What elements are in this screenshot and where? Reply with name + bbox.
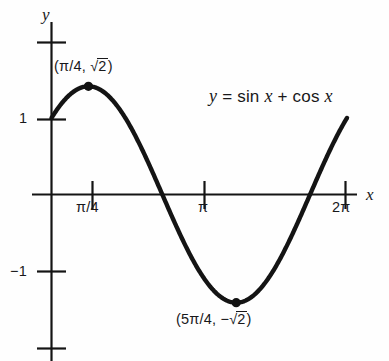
equation-cos-part: + cos: [273, 87, 325, 106]
maximum-label-prefix: (π/4,: [54, 58, 90, 74]
equation-label: y = sin x + cos x: [209, 87, 333, 105]
equation-x-first: x: [264, 86, 272, 106]
minimum-point-label: (5π/4, −√2): [176, 311, 252, 327]
y-tick-label-negative-1: −1: [10, 264, 27, 279]
y-tick-label-1: 1: [19, 111, 27, 126]
minimum-label-suffix: ): [247, 311, 252, 327]
x-tick-label-2pi: 2π: [332, 200, 350, 215]
minimum-label-radical: √2: [229, 311, 246, 327]
maximum-label-radicand: 2: [97, 58, 107, 74]
maximum-label-suffix: ): [108, 58, 113, 74]
maximum-point-marker: [84, 82, 93, 91]
minimum-label-prefix: (5π/4, −: [176, 311, 229, 327]
minimum-label-radicand: 2: [236, 311, 246, 327]
x-axis-label: x: [366, 186, 374, 203]
minimum-point-marker: [232, 298, 241, 307]
graph-canvas: [0, 0, 389, 361]
x-tick-label-pi-over-4: π/4: [76, 200, 99, 215]
maximum-label-radical: √2: [90, 58, 107, 74]
math-graph-figure: y x 1 −1 π/4 π 2π (π/4, √2) (5π/4, −√2) …: [0, 0, 389, 361]
maximum-point-label: (π/4, √2): [54, 58, 113, 74]
equation-sin-part: = sin: [217, 87, 264, 106]
equation-x-second: x: [325, 86, 333, 106]
y-axis-label: y: [42, 6, 50, 23]
equation-y: y: [209, 86, 217, 106]
x-tick-label-pi: π: [198, 200, 208, 215]
